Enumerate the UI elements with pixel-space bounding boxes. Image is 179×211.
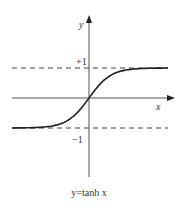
minus-one-label: −1 bbox=[72, 134, 83, 145]
plus-one-label: +1 bbox=[76, 56, 87, 67]
y-axis-label: y bbox=[78, 19, 84, 30]
tanh-diagram: y x +1 −1 y=tanh x bbox=[0, 0, 179, 211]
x-axis-arrow-icon bbox=[167, 95, 175, 101]
y-axis-arrow-icon bbox=[86, 15, 92, 23]
x-axis-label: x bbox=[155, 101, 161, 112]
caption: y=tanh x bbox=[71, 187, 106, 198]
